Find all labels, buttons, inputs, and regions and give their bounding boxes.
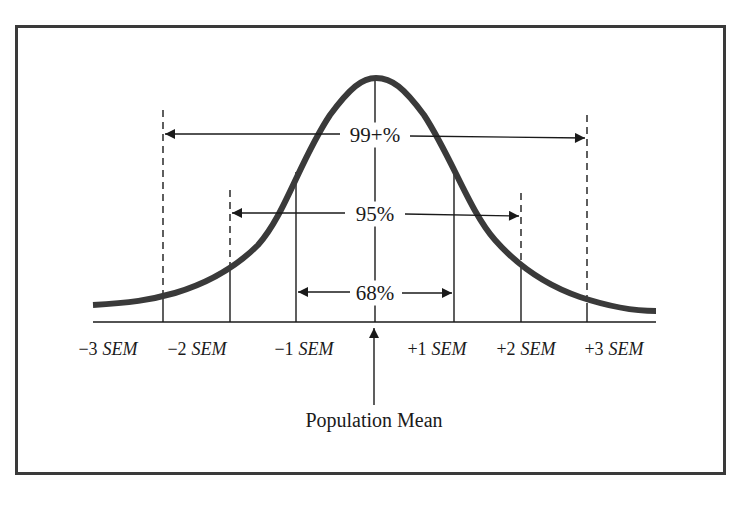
tick-minus-2-sem: −2SEM xyxy=(167,339,226,360)
tick-number: −3 xyxy=(78,339,97,359)
tick-plus-3-sem: +3SEM xyxy=(584,339,643,360)
tick-plus-2-sem: +2SEM xyxy=(496,339,555,360)
tick-unit: SEM xyxy=(521,339,556,359)
tick-number: +2 xyxy=(496,339,515,359)
interval-99-label: 99+% xyxy=(347,123,403,148)
tick-unit: SEM xyxy=(192,339,227,359)
tick-number: +3 xyxy=(584,339,603,359)
tick-minus-1-sem: −1SEM xyxy=(274,339,333,360)
interval-68-label: 68% xyxy=(353,281,398,306)
interval-95-label: 95% xyxy=(353,202,398,227)
tick-plus-1-sem: +1SEM xyxy=(407,339,466,360)
tick-unit: SEM xyxy=(609,339,644,359)
tick-unit: SEM xyxy=(103,339,138,359)
tick-number: −1 xyxy=(274,339,293,359)
interval-95-arrow-right xyxy=(405,214,519,216)
tick-unit: SEM xyxy=(432,339,467,359)
tick-number: −2 xyxy=(167,339,186,359)
tick-unit: SEM xyxy=(299,339,334,359)
tick-minus-3-sem: −3SEM xyxy=(78,339,137,360)
tick-number: +1 xyxy=(407,339,426,359)
population-mean-label: Population Mean xyxy=(305,409,442,432)
